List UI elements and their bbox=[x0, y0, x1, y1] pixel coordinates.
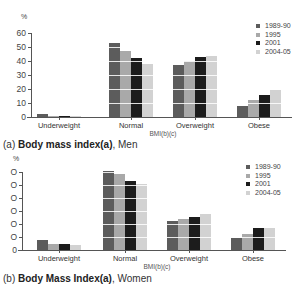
y-axis bbox=[22, 172, 23, 250]
category-label-overweight: Overweight bbox=[159, 254, 219, 263]
legend-swatch bbox=[246, 165, 250, 169]
category-label-obese: Obese bbox=[229, 121, 289, 130]
y-tick-label: 30 bbox=[10, 71, 26, 80]
legend-label: 2001 bbox=[265, 39, 281, 48]
y-tick-label: O bbox=[1, 220, 17, 229]
legend-item-2001: 2001 bbox=[256, 39, 291, 48]
legend-swatch bbox=[246, 174, 250, 178]
legend-label: 2004-05 bbox=[265, 48, 291, 57]
y-unit-label: % bbox=[21, 13, 27, 20]
y-tick bbox=[19, 185, 22, 186]
y-axis bbox=[31, 33, 32, 117]
bar-underweight-2004-05 bbox=[70, 116, 81, 117]
bar-normal-1995 bbox=[114, 174, 125, 250]
gridline bbox=[32, 33, 293, 34]
legend-label: 1989-90 bbox=[265, 22, 291, 31]
x-tick bbox=[131, 117, 132, 120]
x-tick bbox=[195, 117, 196, 120]
legend-swatch bbox=[256, 41, 260, 45]
y-tick bbox=[19, 250, 22, 251]
y-tick bbox=[28, 47, 31, 48]
bar-normal-2001 bbox=[125, 181, 136, 250]
bar-overweight-2004-05 bbox=[200, 214, 211, 250]
bar-obese-2004-05 bbox=[270, 90, 281, 117]
y-tick bbox=[19, 211, 22, 212]
legend-label: 2004-05 bbox=[255, 189, 281, 198]
caption-title: Body mass index(a) bbox=[18, 139, 112, 150]
x-tick bbox=[59, 250, 60, 253]
y-tick bbox=[19, 224, 22, 225]
gridline bbox=[23, 211, 287, 212]
legend-item-2004-05: 2004-05 bbox=[246, 189, 281, 198]
x-tick bbox=[253, 250, 254, 253]
y-tick bbox=[28, 33, 31, 34]
legend-swatch bbox=[256, 33, 260, 37]
legend-label: 1989-90 bbox=[255, 163, 281, 172]
caption-prefix: (a) bbox=[3, 139, 18, 150]
x-axis-label: BMI(b)(c) bbox=[138, 130, 188, 138]
legend-label: 1995 bbox=[255, 172, 271, 181]
y-tick-label: 50 bbox=[10, 43, 26, 52]
x-axis-label: BMI(b)(c) bbox=[132, 263, 182, 271]
bar-overweight-1995 bbox=[184, 61, 195, 117]
category-label-normal: Normal bbox=[101, 121, 161, 130]
x-tick bbox=[59, 117, 60, 120]
bar-obese-1989-90 bbox=[237, 106, 248, 117]
category-label-normal: Normal bbox=[95, 254, 155, 263]
x-tick bbox=[259, 117, 260, 120]
bar-normal-1989-90 bbox=[103, 171, 114, 250]
bar-underweight-2004-05 bbox=[70, 245, 81, 250]
bar-overweight-1989-90 bbox=[167, 221, 178, 250]
bar-underweight-2001 bbox=[59, 244, 70, 250]
category-label-underweight: Underweight bbox=[29, 254, 89, 263]
category-label-obese: Obese bbox=[223, 254, 283, 263]
bar-overweight-2001 bbox=[195, 57, 206, 117]
legend-item-1989-90: 1989-90 bbox=[246, 163, 281, 172]
bar-obese-1989-90 bbox=[231, 238, 242, 250]
bar-obese-1995 bbox=[248, 100, 259, 117]
bar-obese-2001 bbox=[253, 228, 264, 250]
y-tick-label: O bbox=[1, 233, 17, 242]
y-tick bbox=[19, 237, 22, 238]
bar-normal-2004-05 bbox=[142, 64, 153, 117]
bar-normal-1995 bbox=[120, 51, 131, 117]
legend-swatch bbox=[256, 50, 260, 54]
legend-swatch bbox=[246, 191, 250, 195]
y-tick-label: O bbox=[1, 181, 17, 190]
y-unit-label: % bbox=[13, 155, 19, 162]
caption-suffix: , Women bbox=[112, 273, 152, 284]
caption-suffix: , Men bbox=[112, 139, 137, 150]
bar-underweight-1995 bbox=[48, 116, 59, 117]
y-tick-label: O bbox=[1, 194, 17, 203]
y-tick bbox=[28, 117, 31, 118]
y-tick-label: 20 bbox=[10, 85, 26, 94]
bar-overweight-1989-90 bbox=[173, 65, 184, 117]
gridline bbox=[32, 47, 293, 48]
y-tick-label: 10 bbox=[10, 99, 26, 108]
legend-item-1995: 1995 bbox=[256, 31, 291, 40]
legend-item-2004-05: 2004-05 bbox=[256, 48, 291, 57]
bar-overweight-2001 bbox=[189, 217, 200, 250]
bar-obese-2001 bbox=[259, 95, 270, 117]
legend: 1989-90199520012004-05 bbox=[256, 22, 291, 56]
y-tick-label: 0 bbox=[10, 113, 26, 122]
bar-obese-2004-05 bbox=[264, 228, 275, 250]
legend-swatch bbox=[246, 182, 250, 186]
y-tick-label: 0 bbox=[1, 246, 17, 255]
y-tick bbox=[28, 61, 31, 62]
y-tick-label: O bbox=[1, 207, 17, 216]
x-tick bbox=[125, 250, 126, 253]
y-tick-label: 60 bbox=[10, 29, 26, 38]
gridline bbox=[32, 89, 293, 90]
bar-normal-2001 bbox=[131, 58, 142, 117]
bar-overweight-2004-05 bbox=[206, 56, 217, 117]
y-tick bbox=[19, 198, 22, 199]
y-tick bbox=[28, 103, 31, 104]
bar-underweight-1989-90 bbox=[37, 114, 48, 118]
bar-normal-1989-90 bbox=[109, 43, 120, 117]
x-tick bbox=[189, 250, 190, 253]
gridline bbox=[23, 224, 287, 225]
bar-obese-1995 bbox=[242, 234, 253, 250]
chart-women: %0OOOOOOUnderweightNormalOverweightObese… bbox=[0, 150, 305, 303]
y-tick bbox=[28, 89, 31, 90]
